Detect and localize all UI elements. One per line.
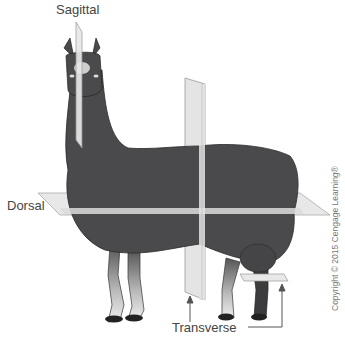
- copyright-notice: Copyright © 2015 Cengage Learning®: [330, 166, 340, 311]
- transverse-leg-plane: [240, 274, 288, 281]
- llama-planes-diagram: Sagittal Dorsal Transverse Copyright © 2…: [0, 0, 345, 343]
- llama-body: [66, 70, 298, 262]
- llama-head: [64, 38, 102, 97]
- dorsal-label: Dorsal: [7, 198, 45, 213]
- llama-illustration: [0, 0, 345, 343]
- sagittal-plane: [76, 22, 82, 148]
- sagittal-label: Sagittal: [56, 2, 99, 17]
- transverse-label: Transverse: [172, 320, 237, 335]
